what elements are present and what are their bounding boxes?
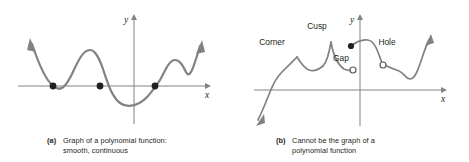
caption-b-line2: polynomial function — [292, 146, 356, 155]
curve-left-arrowhead — [27, 38, 36, 52]
panel-a-svg: y x — [0, 0, 234, 134]
x-intercept-marker-3 — [152, 83, 159, 90]
x-axis-label: x — [440, 94, 446, 104]
polynomial-curve — [27, 38, 205, 106]
caption-a-label: (a) — [47, 136, 63, 146]
x-axis-label: x — [204, 90, 210, 100]
x-intercept-marker-2 — [97, 83, 104, 90]
nonpolynomial-curve — [256, 34, 434, 126]
annotation-hole: Hole — [378, 37, 396, 47]
gap-filled-point — [348, 43, 354, 49]
figure-container: y x — [0, 0, 469, 162]
caption-a: (a) Graph of a polynomial function: smoo… — [47, 136, 167, 157]
gap-open-point — [350, 67, 356, 73]
annotation-gap: Gap — [333, 53, 349, 63]
hole-open-point — [380, 62, 386, 68]
annotation-cusp: Cusp — [307, 21, 327, 31]
annotation-corner: Corner — [259, 37, 285, 47]
curve-right-arrowhead — [425, 34, 434, 46]
caption-a-line1: Graph of a polynomial function: — [63, 136, 167, 145]
x-intercept-marker-1 — [50, 83, 57, 90]
caption-b: (b) Cannot be the graph of a polynomial … — [276, 136, 375, 157]
y-axis-label: y — [349, 15, 355, 25]
panel-b-svg: y x — [234, 0, 469, 134]
caption-b-label: (b) — [276, 136, 292, 146]
caption-a-line2: smooth, continuous — [63, 146, 128, 155]
caption-b-line1: Cannot be the graph of a — [292, 136, 375, 145]
y-axis-label: y — [123, 15, 129, 25]
curve-right-arrowhead — [196, 40, 205, 54]
